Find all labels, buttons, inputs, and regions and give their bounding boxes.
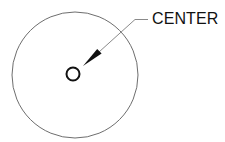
arrowhead-icon xyxy=(83,49,102,66)
center-point-circle xyxy=(67,68,80,81)
leader-line xyxy=(99,20,148,53)
outer-circle xyxy=(12,12,138,138)
center-label: CENTER xyxy=(152,10,218,28)
